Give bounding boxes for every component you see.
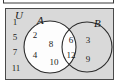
element-universe-3: 11: [12, 63, 21, 73]
element-universe-1: 5: [13, 32, 18, 42]
element-a-1: 4: [33, 50, 38, 60]
element-a-2: 8: [49, 39, 54, 49]
venn-diagram-figure: U A B 1 5 7 11 2 4 8 10 6 12 3 9: [0, 0, 121, 83]
element-universe-2: 7: [13, 47, 18, 57]
set-b-label: B: [94, 17, 101, 29]
element-intersection-0: 6: [69, 35, 74, 45]
element-universe-0: 1: [13, 17, 18, 27]
venn-diagram-canvas: U A B 1 5 7 11 2 4 8 10 6 12 3 9: [0, 0, 121, 83]
element-intersection-1: 12: [67, 50, 76, 60]
set-a-label: A: [36, 14, 44, 26]
top-cropped-frame: [4, 0, 114, 3]
element-a-0: 2: [33, 30, 38, 40]
element-b-1: 9: [86, 54, 91, 64]
set-b-circle: [62, 22, 112, 72]
element-a-3: 10: [50, 57, 60, 67]
element-b-0: 3: [86, 35, 91, 45]
